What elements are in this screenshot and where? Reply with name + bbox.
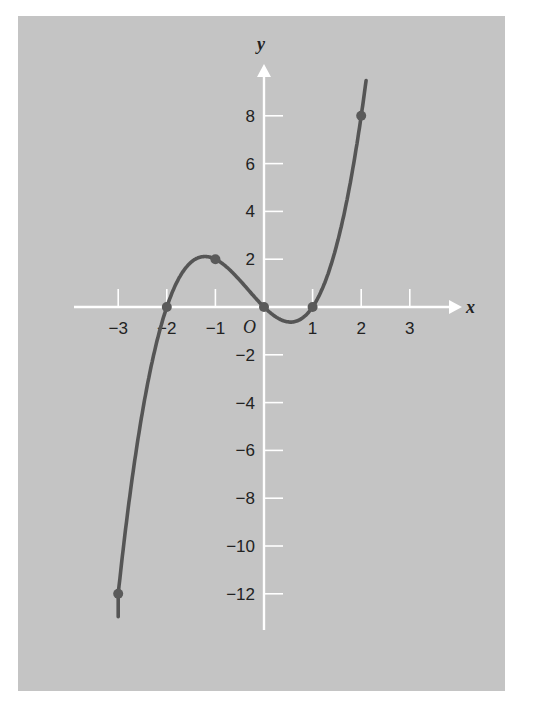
x-tick-label: −1 bbox=[206, 319, 225, 338]
data-point bbox=[259, 302, 269, 312]
y-tick-label: −8 bbox=[236, 489, 255, 508]
x-tick-label: 2 bbox=[356, 319, 365, 338]
data-point bbox=[113, 589, 123, 599]
y-tick-label: −12 bbox=[226, 585, 255, 604]
y-axis-label: y bbox=[255, 34, 266, 54]
graph-panel bbox=[18, 16, 505, 691]
data-point bbox=[210, 254, 220, 264]
y-tick-label: −10 bbox=[226, 537, 255, 556]
data-point bbox=[356, 111, 366, 121]
data-point bbox=[308, 302, 318, 312]
x-tick-label: 1 bbox=[308, 319, 317, 338]
origin-label: O bbox=[243, 317, 256, 337]
y-tick-label: −6 bbox=[236, 441, 255, 460]
y-tick-label: 6 bbox=[246, 155, 255, 174]
y-tick-label: 8 bbox=[246, 107, 255, 126]
x-axis-label: x bbox=[465, 297, 475, 317]
function-graph: −3−2−1123 8642−2−4−6−8−10−12 x y O bbox=[0, 0, 534, 703]
x-tick-label: −3 bbox=[109, 319, 128, 338]
x-tick-label: 3 bbox=[405, 319, 414, 338]
y-tick-label: 4 bbox=[246, 202, 255, 221]
data-point bbox=[162, 302, 172, 312]
y-tick-label: −2 bbox=[236, 346, 255, 365]
y-tick-label: −4 bbox=[236, 394, 255, 413]
y-tick-label: 2 bbox=[246, 250, 255, 269]
